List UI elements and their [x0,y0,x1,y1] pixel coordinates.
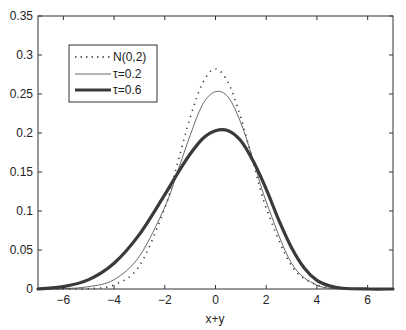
legend-label-tau-02: τ=0.2 [113,67,142,81]
y-tick-label: 0.2 [16,126,33,140]
chart-canvas: −6−4−20246 00.050.10.150.20.250.30.35 x+… [0,0,406,330]
y-tick-label: 0.35 [10,9,34,23]
legend: N(0,2) τ=0.2 τ=0.6 [69,45,157,102]
x-tick-label: −6 [57,293,71,307]
x-tick-label: 6 [364,293,371,307]
y-tick-label: 0.15 [10,165,34,179]
y-tick-label: 0.25 [10,87,34,101]
y-tick-label: 0.1 [16,204,33,218]
series-line-2 [38,130,393,290]
x-axis-label: x+y [205,312,224,326]
y-tick-label: 0.3 [16,48,33,62]
y-axis-ticks: 00.050.10.150.20.250.30.35 [10,9,393,296]
legend-label-normal: N(0,2) [113,50,146,64]
x-tick-label: 4 [314,293,321,307]
x-tick-label: 2 [263,293,270,307]
x-tick-label: −4 [107,293,121,307]
y-tick-label: 0 [26,282,33,296]
x-tick-label: 0 [212,293,219,307]
y-tick-label: 0.05 [10,243,34,257]
series-line-1 [38,91,393,289]
x-tick-label: −2 [158,293,172,307]
legend-label-tau-06: τ=0.6 [113,83,142,97]
